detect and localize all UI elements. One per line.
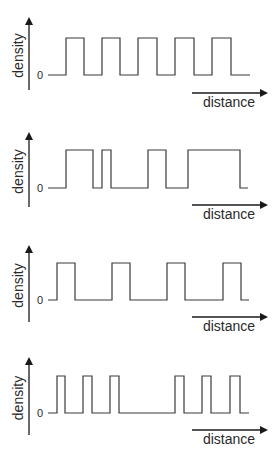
x-axis-label: distance [203, 94, 255, 110]
density-signal-line [48, 263, 249, 300]
panel-4: density0distance [10, 359, 266, 447]
density-signal-line [48, 38, 250, 75]
y-axis-label: density [10, 33, 26, 77]
y-axis-label: density [10, 376, 26, 420]
zero-label: 0 [37, 182, 43, 194]
panel-2: density0distance [10, 134, 266, 222]
y-axis-label: density [10, 149, 26, 193]
zero-label: 0 [37, 294, 43, 306]
panel-3: density0distance [10, 247, 266, 334]
zero-label: 0 [37, 69, 43, 81]
zero-label: 0 [37, 407, 43, 419]
density-signal-line [48, 376, 249, 413]
x-axis-label: distance [203, 318, 255, 334]
x-axis-label: distance [203, 206, 255, 222]
density-signal-line [48, 150, 248, 188]
x-axis-label: distance [203, 431, 255, 447]
panels-group: density0distancedensity0distancedensity0… [10, 19, 266, 447]
panel-1: density0distance [10, 19, 266, 110]
y-axis-label: density [10, 263, 26, 307]
density-distance-diagram: density0distancedensity0distancedensity0… [0, 0, 278, 456]
